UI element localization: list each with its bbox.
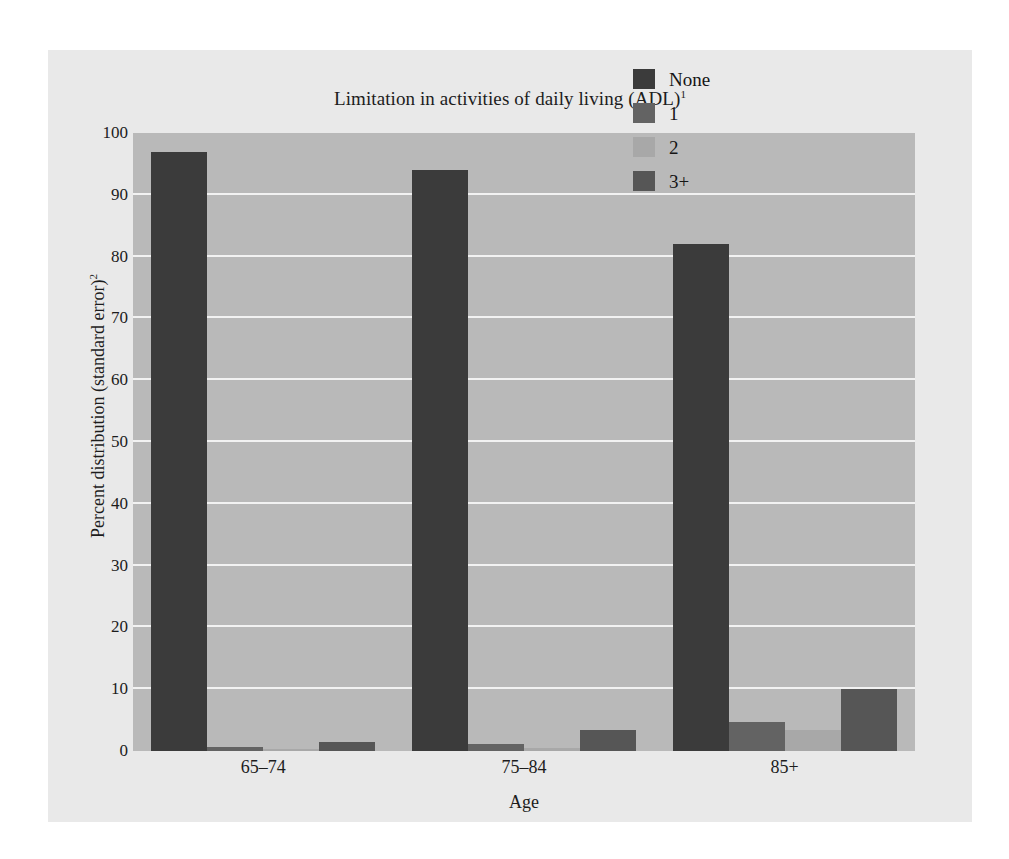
chart-page: Limitation in activities of daily living… xyxy=(0,0,1009,859)
bar xyxy=(524,748,580,751)
gridline xyxy=(133,502,915,504)
legend-item: None xyxy=(633,62,803,96)
bar xyxy=(673,244,729,751)
legend-item: 1 xyxy=(633,96,803,130)
y-axis-ticks: 0102030405060708090100 xyxy=(68,133,128,751)
legend-swatch-icon xyxy=(633,103,655,123)
bar xyxy=(412,170,468,751)
bar xyxy=(729,722,785,751)
y-tick-label: 100 xyxy=(82,123,128,143)
legend-label: 1 xyxy=(669,104,679,123)
y-tick-label: 50 xyxy=(82,432,128,452)
gridline xyxy=(133,378,915,380)
x-tick-label: 75–84 xyxy=(502,757,547,778)
gridline xyxy=(133,564,915,566)
x-tick-label: 85+ xyxy=(771,757,799,778)
legend-item: 2 xyxy=(633,130,803,164)
x-axis-ticks: 65–7475–8485+ xyxy=(133,757,915,787)
bar xyxy=(785,730,841,751)
y-tick-label: 20 xyxy=(82,617,128,637)
chart-title-text: Limitation in activities of daily living… xyxy=(334,88,681,109)
y-tick-label: 70 xyxy=(82,308,128,328)
gridline xyxy=(133,625,915,627)
gridline xyxy=(133,440,915,442)
plot-area xyxy=(133,133,915,751)
y-tick-label: 60 xyxy=(82,370,128,390)
y-tick-label: 0 xyxy=(82,741,128,761)
bar xyxy=(207,747,263,751)
y-tick-label: 80 xyxy=(82,247,128,267)
x-tick-label: 65–74 xyxy=(241,757,286,778)
gridline xyxy=(133,687,915,689)
legend-swatch-icon xyxy=(633,171,655,191)
bar xyxy=(263,749,319,751)
bar xyxy=(468,744,524,751)
gridline xyxy=(133,255,915,257)
gridline xyxy=(133,316,915,318)
y-tick-label: 90 xyxy=(82,185,128,205)
bar xyxy=(580,730,636,751)
legend-swatch-icon xyxy=(633,69,655,89)
chart-title: Limitation in activities of daily living… xyxy=(48,88,972,110)
y-tick-label: 40 xyxy=(82,494,128,514)
legend-label: 3+ xyxy=(669,172,689,191)
figure-panel: Limitation in activities of daily living… xyxy=(48,50,972,822)
x-axis-title: Age xyxy=(133,792,915,813)
bar xyxy=(151,152,207,751)
bar xyxy=(319,742,375,751)
legend-item: 3+ xyxy=(633,164,803,198)
chart-legend: None123+ xyxy=(633,62,803,198)
y-tick-label: 10 xyxy=(82,679,128,699)
legend-label: None xyxy=(669,70,710,89)
bar xyxy=(841,689,897,751)
legend-label: 2 xyxy=(669,138,679,157)
y-tick-label: 30 xyxy=(82,556,128,576)
legend-swatch-icon xyxy=(633,137,655,157)
